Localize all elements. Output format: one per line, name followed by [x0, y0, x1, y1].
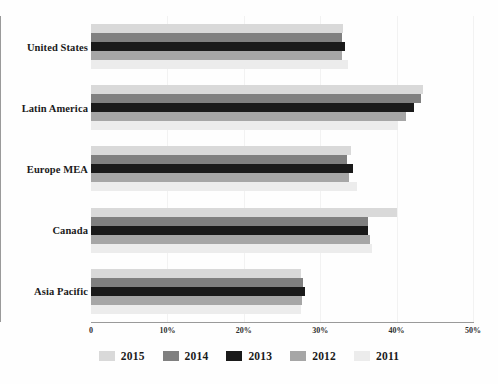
- bar[interactable]: [91, 51, 342, 60]
- legend-label: 2014: [185, 350, 209, 362]
- bar-row: [91, 164, 473, 173]
- bar-row: [91, 208, 473, 217]
- bar-row: [91, 42, 473, 51]
- bar-row: [91, 287, 473, 296]
- bar-row: [91, 155, 473, 164]
- legend-swatch: [163, 351, 179, 361]
- bar-group: [91, 16, 473, 77]
- legend-item[interactable]: 2013: [226, 350, 272, 362]
- bar-group: [91, 261, 473, 322]
- bar-row: [91, 85, 473, 94]
- bar-chart: United StatesLatin AmericaEurope MEACana…: [0, 0, 498, 384]
- bar[interactable]: [91, 278, 303, 287]
- legend-label: 2015: [121, 350, 145, 362]
- bar[interactable]: [91, 173, 349, 182]
- bar[interactable]: [91, 112, 406, 121]
- category-label: United States: [2, 41, 88, 52]
- bar[interactable]: [91, 155, 347, 164]
- bar-row: [91, 112, 473, 121]
- x-axis-tick-label: 10%: [159, 326, 175, 335]
- legend-item[interactable]: 2012: [290, 350, 336, 362]
- bar-group: [91, 77, 473, 138]
- bar[interactable]: [91, 244, 372, 253]
- bar[interactable]: [91, 121, 398, 130]
- legend-item[interactable]: 2014: [163, 350, 209, 362]
- bar[interactable]: [91, 42, 345, 51]
- x-axis-tick-label: 30%: [312, 326, 328, 335]
- bar[interactable]: [91, 217, 368, 226]
- legend-swatch: [226, 351, 242, 361]
- bar-row: [91, 269, 473, 278]
- legend-label: 2012: [312, 350, 336, 362]
- bar[interactable]: [91, 146, 351, 155]
- bar-row: [91, 173, 473, 182]
- category-label: Europe MEA: [2, 164, 88, 175]
- bar-row: [91, 24, 473, 33]
- category-label: Latin America: [2, 102, 88, 113]
- bar-row: [91, 51, 473, 60]
- bar[interactable]: [91, 24, 343, 33]
- bar[interactable]: [91, 305, 301, 314]
- bar-row: [91, 305, 473, 314]
- legend: 20152014201320122011: [0, 350, 498, 362]
- legend-label: 2011: [376, 350, 399, 362]
- bar[interactable]: [91, 164, 353, 173]
- legend-swatch: [99, 351, 115, 361]
- bar-row: [91, 121, 473, 130]
- category-label: Asia Pacific: [2, 286, 88, 297]
- bar-row: [91, 226, 473, 235]
- bar[interactable]: [91, 94, 421, 103]
- bar[interactable]: [91, 296, 302, 305]
- bar-row: [91, 182, 473, 191]
- bar[interactable]: [91, 33, 342, 42]
- bar[interactable]: [91, 103, 414, 112]
- legend-swatch: [290, 351, 306, 361]
- legend-item[interactable]: 2015: [99, 350, 145, 362]
- bar-row: [91, 235, 473, 244]
- legend-swatch: [354, 351, 370, 361]
- bar-row: [91, 103, 473, 112]
- legend-item[interactable]: 2011: [354, 350, 399, 362]
- bar-group: [91, 200, 473, 261]
- plot-area: [91, 16, 473, 322]
- value-axis-line: [91, 322, 474, 323]
- bar[interactable]: [91, 287, 305, 296]
- bar[interactable]: [91, 182, 357, 191]
- bar-row: [91, 33, 473, 42]
- bar[interactable]: [91, 208, 397, 217]
- bar-row: [91, 146, 473, 155]
- value-axis-tick-labels: 010%20%30%40%50%: [0, 326, 498, 342]
- legend-label: 2013: [248, 350, 272, 362]
- bar-row: [91, 296, 473, 305]
- bar-row: [91, 244, 473, 253]
- bar[interactable]: [91, 269, 301, 278]
- bar-group: [91, 138, 473, 199]
- x-axis-tick-label: 0: [89, 326, 93, 335]
- bar-row: [91, 278, 473, 287]
- bar[interactable]: [91, 226, 368, 235]
- bar[interactable]: [91, 235, 370, 244]
- bar-row: [91, 60, 473, 69]
- category-label: Canada: [2, 225, 88, 236]
- bar[interactable]: [91, 85, 423, 94]
- bar[interactable]: [91, 60, 348, 69]
- x-axis-tick-label: 50%: [465, 326, 481, 335]
- x-axis-tick-label: 40%: [389, 326, 405, 335]
- bar-row: [91, 217, 473, 226]
- gridline: [473, 16, 474, 322]
- bar-row: [91, 94, 473, 103]
- x-axis-tick-label: 20%: [236, 326, 252, 335]
